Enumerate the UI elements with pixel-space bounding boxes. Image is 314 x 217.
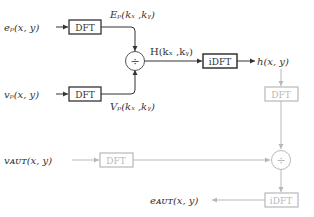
label-eaut: eᴀᴜᴛ(x, y) <box>150 195 198 206</box>
label-Vp: Vₚ(kₓ ,kᵧ) <box>110 101 155 112</box>
divide-top-symbol: ÷ <box>130 55 139 68</box>
aut-path <box>72 69 298 207</box>
dft-vaut-label: DFT <box>106 156 125 166</box>
idft-top-label: iDFT <box>209 57 231 67</box>
dft-h-label: DFT <box>271 90 290 100</box>
label-ep: eₚ(x, y) <box>4 22 39 33</box>
dft-ep-label: DFT <box>75 23 94 33</box>
label-vaut: vᴀᴜᴛ(x, y) <box>4 155 52 166</box>
dft-vp-label: DFT <box>75 90 94 100</box>
divide-bottom-symbol: ÷ <box>276 154 285 167</box>
arrow-Vp-divide <box>101 70 135 94</box>
system-diagram: eₚ(x, y) vₚ(x, y) DFT DFT Eₚ(kₓ ,kᵧ) Vₚ(… <box>0 0 314 217</box>
label-vp: vₚ(x, y) <box>4 89 39 100</box>
idft-bottom-label: iDFT <box>270 196 292 206</box>
label-H: H(kₓ ,kᵧ) <box>150 46 193 57</box>
label-h: h(x, y) <box>257 56 289 67</box>
label-Ep: Eₚ(kₓ ,kᵧ) <box>109 9 155 20</box>
arrow-Ep-divide <box>101 27 135 51</box>
